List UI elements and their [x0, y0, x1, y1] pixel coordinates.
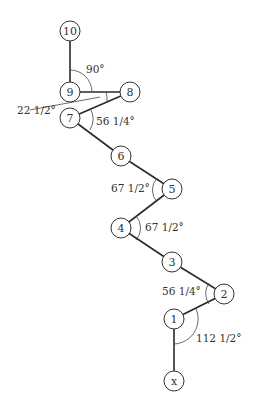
node-label: 3 — [169, 256, 176, 269]
node-label: 10 — [63, 25, 77, 38]
arc-67-half-5 — [152, 178, 157, 202]
node-label: 4 — [118, 222, 125, 235]
node-7: 7 — [60, 108, 80, 128]
node-label: 7 — [67, 112, 74, 125]
node-8: 8 — [120, 82, 140, 102]
node-1: 1 — [164, 309, 184, 329]
arc-56-quarter-top — [90, 108, 93, 130]
edges — [70, 31, 224, 381]
node-4: 4 — [111, 218, 131, 238]
node-label: 9 — [67, 86, 74, 99]
node-label: 5 — [169, 183, 176, 196]
arc-56-quarter-2 — [206, 283, 209, 304]
angle-label: 22 1/2° — [17, 104, 56, 116]
angle-label: 112 1/2° — [196, 332, 242, 344]
node-label: 6 — [118, 150, 125, 163]
node-6: 6 — [111, 146, 131, 166]
node-label: 1 — [171, 313, 178, 326]
angle-label: 67 1/2° — [111, 182, 150, 194]
node-label: 8 — [127, 86, 134, 99]
angle-arcs — [30, 70, 209, 344]
node-label: x — [171, 375, 178, 388]
arc-67-half-4 — [136, 216, 141, 240]
angle-chain-diagram: 10987654321x 90°22 1/2°56 1/4°67 1/2°67 … — [0, 0, 255, 410]
node-x: x — [164, 371, 184, 391]
angle-label: 56 1/4° — [96, 115, 135, 127]
node-9: 9 — [60, 82, 80, 102]
angle-label: 67 1/2° — [145, 221, 184, 233]
arc-22-half — [106, 92, 107, 101]
angle-label: 90° — [86, 63, 105, 75]
node-3: 3 — [162, 252, 182, 272]
node-10: 10 — [60, 21, 80, 41]
angle-label: 56 1/4° — [162, 285, 201, 297]
node-5: 5 — [162, 179, 182, 199]
node-label: 2 — [221, 288, 228, 301]
node-2: 2 — [214, 284, 234, 304]
